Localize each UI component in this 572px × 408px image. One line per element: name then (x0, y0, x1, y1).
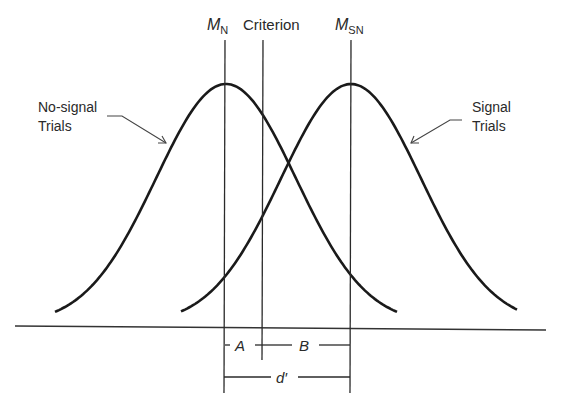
d-prime-label: d′ (276, 369, 288, 386)
segment-a-label: A (234, 337, 245, 354)
no-signal-distribution-curve (55, 84, 397, 312)
signal-label-line1: Signal (472, 99, 511, 115)
signal-detection-diagram: MN Criterion MSN No-signal Trials Signal… (0, 0, 572, 408)
criterion-label: Criterion (243, 16, 300, 33)
baseline-axis (15, 326, 546, 330)
no-signal-label-line1: No-signal (38, 99, 97, 115)
criterion-line (262, 40, 263, 360)
no-signal-arrowhead-icon (158, 136, 166, 143)
mean-noise-line (224, 40, 225, 393)
signal-label-line2: Trials (472, 118, 506, 134)
no-signal-label-line2: Trials (38, 118, 72, 134)
signal-pointer-arrow-icon (411, 120, 462, 143)
mean-signal-noise-line (350, 40, 351, 393)
segment-b-label: B (299, 337, 309, 354)
mean-noise-label: MN (207, 16, 228, 36)
signal-distribution-curve (181, 84, 517, 311)
mean-signal-noise-label: MSN (335, 16, 364, 36)
no-signal-pointer-arrow-icon (107, 116, 166, 143)
